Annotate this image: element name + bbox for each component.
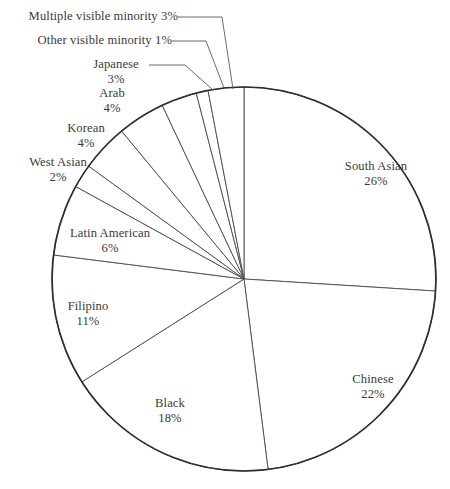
slice-label-korean: Korean 4%	[51, 121, 121, 152]
slice-label-japanese: Japanese 3%	[84, 57, 148, 88]
pie-chart: Multiple visible minority 3% Other visib…	[0, 0, 450, 489]
leader-line-multiple-visible-minority	[178, 17, 233, 89]
leader-lines	[149, 17, 233, 90]
slice-label-arab: Arab 4%	[84, 86, 140, 117]
slice-label-latin-american: Latin American 6%	[58, 226, 162, 257]
slice-label-filipino: Filipino 11%	[53, 299, 123, 330]
slice-label-multiple-visible-minority: Multiple visible minority 3%	[4, 9, 178, 24]
slice-label-west-asian: West Asian 2%	[14, 155, 102, 186]
slice-label-other-visible-minority: Other visible minority 1%	[4, 33, 172, 48]
slice-label-chinese: Chinese 22%	[338, 372, 408, 403]
leader-line-japanese	[149, 65, 213, 90]
slice-label-south-asian: South Asian 26%	[333, 159, 419, 190]
leader-line-other-visible-minority	[172, 41, 224, 88]
slice-label-black: Black 18%	[142, 396, 198, 427]
